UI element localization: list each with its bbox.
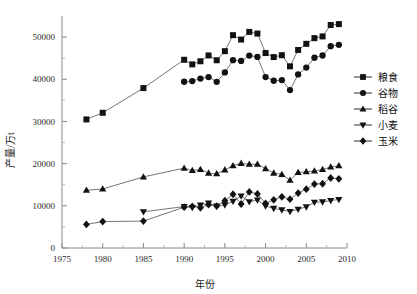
marker-diamond — [319, 180, 326, 188]
x-tick-label: 2000 — [257, 254, 276, 264]
marker-circle — [360, 90, 366, 96]
marker-square — [303, 41, 309, 47]
marker-triangle-up — [262, 165, 269, 171]
y-axis-title: 产量/万t — [4, 132, 16, 168]
legend-label-3: 稻谷 — [378, 104, 398, 115]
legend-item-3[interactable]: 稻谷 — [354, 104, 398, 115]
marker-square — [181, 57, 187, 63]
marker-triangle-down — [246, 199, 253, 205]
legend-item-5[interactable]: 玉米 — [354, 135, 398, 147]
marker-circle — [214, 79, 220, 85]
series-3 — [83, 160, 343, 193]
marker-triangle-up — [238, 160, 245, 166]
legend-item-2[interactable]: 谷物 — [354, 87, 398, 99]
marker-diamond — [327, 174, 334, 182]
marker-circle — [271, 78, 277, 84]
marker-triangle-up — [83, 186, 90, 192]
marker-square — [279, 52, 285, 58]
marker-triangle-up — [197, 166, 204, 172]
marker-square — [311, 35, 317, 41]
marker-circle — [311, 55, 317, 61]
marker-square — [328, 22, 334, 28]
x-tick-label: 1975 — [53, 254, 72, 264]
marker-diamond — [197, 204, 204, 212]
y-tick-label: 40000 — [33, 74, 56, 84]
series-2 — [181, 42, 342, 94]
marker-triangle-down — [319, 199, 326, 205]
marker-circle — [287, 87, 293, 93]
legend-item-1[interactable]: 粮食 — [354, 71, 398, 83]
plot-area: 01000020000300004000050000 1975198019851… — [4, 16, 398, 290]
chart-legend: 粮食谷物稻谷小麦玉米 — [354, 71, 398, 147]
marker-triangle-down — [238, 193, 245, 199]
marker-triangle-down — [360, 123, 367, 129]
x-tick-label: 1980 — [94, 254, 113, 264]
marker-circle — [328, 43, 334, 49]
marker-diamond — [213, 202, 220, 210]
marker-square — [222, 48, 228, 54]
marker-circle — [222, 69, 228, 75]
y-axis-tick-labels: 01000020000300004000050000 — [33, 32, 56, 253]
marker-circle — [336, 42, 342, 48]
marker-circle — [254, 54, 260, 60]
x-tick-label: 2005 — [297, 254, 316, 264]
marker-diamond — [335, 175, 342, 183]
marker-square — [360, 74, 366, 80]
data-series — [83, 21, 343, 228]
x-tick-label: 1985 — [134, 254, 153, 264]
marker-diamond — [99, 218, 106, 226]
marker-diamond — [189, 202, 196, 210]
marker-circle — [303, 64, 309, 70]
marker-circle — [295, 71, 301, 77]
marker-diamond — [287, 195, 294, 203]
marker-square — [189, 61, 195, 67]
marker-square — [206, 52, 212, 58]
series-5 — [83, 174, 342, 228]
chart-container: 01000020000300004000050000 1975198019851… — [0, 0, 417, 294]
axes — [62, 16, 347, 248]
y-tick-label: 0 — [51, 243, 56, 253]
marker-triangle-down — [140, 209, 147, 215]
marker-triangle-up — [221, 166, 228, 172]
marker-circle — [319, 52, 325, 58]
series-1 — [83, 21, 341, 122]
marker-circle — [205, 74, 211, 80]
marker-circle — [279, 77, 285, 83]
marker-triangle-up — [335, 162, 342, 168]
x-axis-tick-labels: 19751980198519901995200020052010 — [53, 254, 357, 264]
marker-triangle-down — [229, 199, 236, 205]
marker-circle — [189, 78, 195, 84]
marker-square — [246, 29, 252, 35]
legend-label-2: 谷物 — [378, 87, 398, 99]
marker-square — [140, 85, 146, 91]
y-tick-label: 10000 — [33, 201, 56, 211]
y-tick-label: 30000 — [33, 117, 56, 127]
legend-item-4[interactable]: 小麦 — [354, 120, 398, 131]
marker-square — [254, 31, 260, 37]
series-line-5 — [86, 178, 338, 224]
marker-diamond — [278, 193, 285, 201]
legend-label-1: 粮食 — [378, 71, 398, 83]
marker-square — [287, 63, 293, 69]
marker-square — [238, 37, 244, 43]
x-axis-title: 年份 — [195, 278, 215, 290]
marker-diamond — [311, 180, 318, 188]
y-tick-label: 50000 — [33, 32, 56, 42]
legend-label-4: 小麦 — [378, 120, 398, 131]
marker-square — [295, 47, 301, 53]
marker-square — [336, 21, 342, 27]
marker-diamond — [140, 217, 147, 225]
y-tick-label: 20000 — [33, 159, 56, 169]
marker-diamond — [270, 196, 277, 204]
marker-triangle-up — [213, 170, 220, 176]
marker-triangle-down — [311, 200, 318, 206]
x-tick-label: 2010 — [338, 254, 357, 264]
marker-triangle-down — [286, 209, 293, 215]
marker-triangle-up — [254, 161, 261, 167]
marker-diamond — [303, 185, 310, 193]
marker-diamond — [360, 137, 367, 145]
marker-square — [271, 54, 277, 60]
marker-square — [100, 110, 106, 116]
marker-circle — [238, 58, 244, 64]
legend-label-5: 玉米 — [378, 135, 398, 147]
